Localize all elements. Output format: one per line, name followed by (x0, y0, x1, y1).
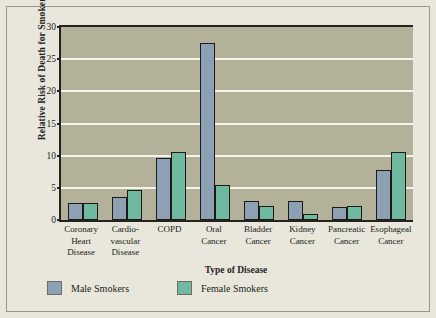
chart-legend: Male SmokersFemale Smokers (47, 281, 377, 295)
bar[interactable] (244, 201, 259, 220)
bar-group (193, 27, 237, 220)
x-axis-category-label: COPD (148, 224, 192, 266)
bar[interactable] (171, 152, 186, 220)
legend-swatch-icon (177, 281, 192, 295)
y-axis-tick-label: 5 (51, 183, 56, 193)
bar-group (369, 27, 413, 220)
x-axis-category-label: KidneyCancer (280, 224, 324, 266)
bar[interactable] (288, 201, 303, 220)
y-axis-tick-label: 30 (47, 22, 57, 32)
plot-area-wrapper: 051015202530 (59, 25, 413, 222)
bar[interactable] (112, 197, 127, 220)
chart-figure: Relative Risk of Death for Smokers 05101… (6, 6, 430, 312)
bar[interactable] (215, 185, 230, 220)
y-axis-tick-label: 0 (51, 215, 56, 225)
y-axis-title: Relative Risk of Death for Smokers (37, 0, 47, 162)
bar[interactable] (303, 214, 318, 220)
x-axis-category-label: OralCancer (192, 224, 236, 266)
bar[interactable] (332, 207, 347, 220)
bar[interactable] (259, 206, 274, 220)
bar-group (325, 27, 369, 220)
x-axis-category-label: Cardio-vascularDisease (103, 224, 147, 266)
x-axis-tick-labels: CoronaryHeartDiseaseCardio-vascularDisea… (59, 224, 413, 266)
bar[interactable] (156, 158, 171, 220)
bar[interactable] (200, 43, 215, 220)
x-axis-category-label: BladderCancer (236, 224, 280, 266)
bar-group (281, 27, 325, 220)
bar[interactable] (391, 152, 406, 220)
bar-group (105, 27, 149, 220)
legend-label: Female Smokers (201, 283, 268, 294)
y-axis-tick-label: 15 (47, 119, 57, 129)
x-axis-category-label: PancreaticCancer (325, 224, 369, 266)
x-axis-title: Type of Disease (59, 265, 413, 275)
bar[interactable] (347, 206, 362, 220)
x-axis-category-label: CoronaryHeartDisease (59, 224, 103, 266)
y-axis-tick-label: 10 (47, 151, 57, 161)
legend-swatch-icon (47, 281, 62, 295)
bar[interactable] (127, 190, 142, 220)
plot-area: 051015202530 (59, 25, 413, 222)
bar[interactable] (68, 203, 83, 220)
x-axis-category-label: EsophagealCancer (369, 224, 413, 266)
bar-series-container (61, 27, 413, 220)
bar[interactable] (83, 203, 98, 220)
legend-label: Male Smokers (71, 283, 129, 294)
legend-item[interactable]: Male Smokers (47, 281, 129, 295)
bar-group (61, 27, 105, 220)
legend-item[interactable]: Female Smokers (177, 281, 268, 295)
bar-group (149, 27, 193, 220)
y-axis-tick-label: 20 (47, 86, 57, 96)
bar[interactable] (376, 170, 391, 220)
y-axis-tick-label: 25 (47, 54, 57, 64)
bar-group (237, 27, 281, 220)
